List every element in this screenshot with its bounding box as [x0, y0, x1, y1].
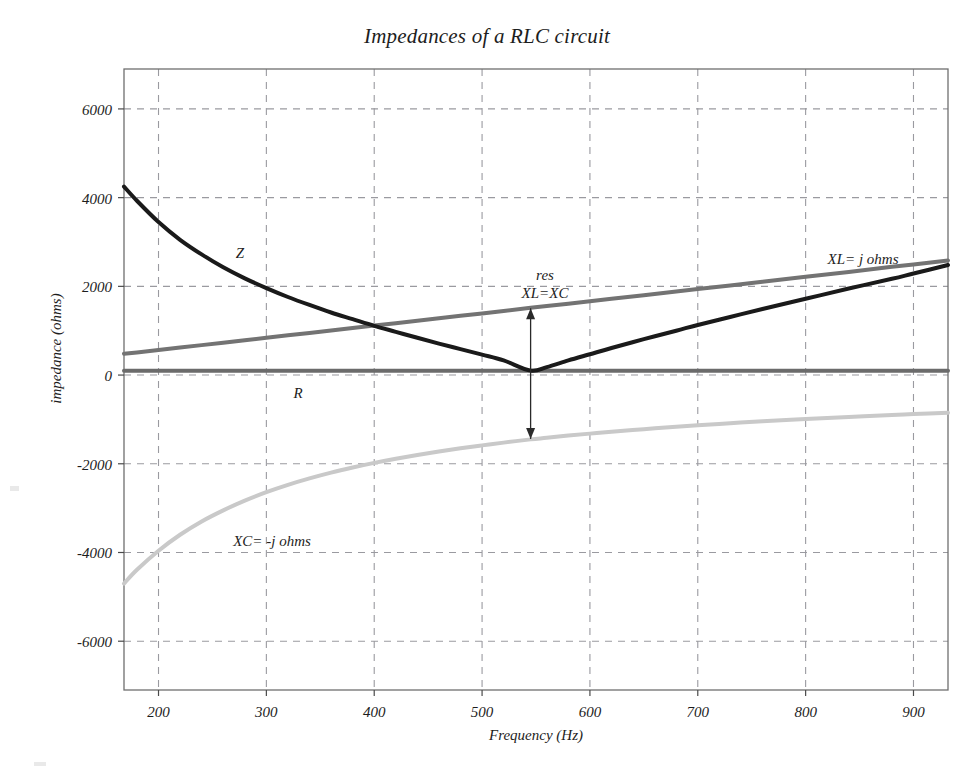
chart-figure: Impedances of a RLC circuit impedance (o…: [0, 0, 974, 784]
resonance-arrow: [526, 308, 535, 439]
series-line-xc: [124, 413, 948, 584]
data-series: [124, 187, 948, 584]
y-tick-label: 2000: [82, 279, 113, 295]
x-tick-label: 900: [902, 704, 925, 720]
x-tick-label: 300: [254, 704, 278, 720]
x-tick-label: 500: [471, 704, 494, 720]
x-tick-label: 400: [363, 704, 386, 720]
x-tick-label: 600: [579, 704, 602, 720]
plot-frame: [124, 69, 948, 690]
label-xl: XL= j ohms: [827, 251, 899, 267]
x-tick-label: 700: [687, 704, 710, 720]
x-tick-label: 200: [147, 704, 170, 720]
axis-ticks: [118, 109, 913, 696]
y-tick-label: -4000: [77, 545, 112, 561]
label-xc: XC= -j ohms: [232, 533, 311, 549]
axes-border: [124, 69, 948, 690]
y-tick-label: -6000: [77, 634, 112, 650]
x-tick-label: 800: [794, 704, 817, 720]
grid-lines: [124, 69, 948, 690]
scan-speck: [10, 486, 19, 491]
label-xl-eq-xc: XL=XC: [521, 285, 570, 301]
y-tick-label: 4000: [82, 191, 113, 207]
tick-labels: 2003004005006007008009006000400020000-20…: [77, 102, 925, 720]
plot-area: 2003004005006007008009006000400020000-20…: [0, 0, 974, 784]
y-tick-label: 6000: [82, 102, 113, 118]
y-tick-label: -2000: [77, 457, 112, 473]
label-r: R: [292, 385, 302, 401]
label-res: res: [536, 267, 554, 283]
series-labels: ZRXL= j ohmsXC= -j ohmsresXL=XC: [232, 245, 898, 549]
label-z: Z: [236, 245, 245, 261]
scan-speck: [34, 762, 46, 766]
y-tick-label: 0: [105, 368, 113, 384]
